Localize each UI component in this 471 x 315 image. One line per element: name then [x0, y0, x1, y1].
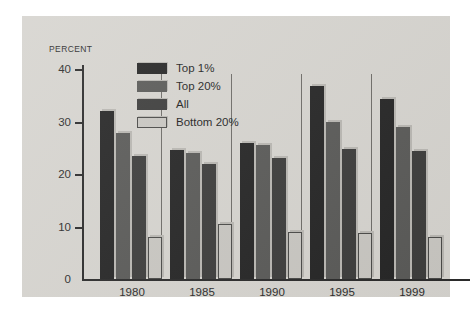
bars [310, 86, 374, 279]
y-tick-label: 10 [58, 221, 71, 233]
bar-1990-all[interactable] [272, 158, 286, 279]
bar-1985-bottom-20[interactable] [218, 224, 232, 279]
x-tick-label-1999: 1999 [399, 286, 425, 298]
legend-swatch-icon [137, 81, 167, 92]
legend-swatch-icon [137, 63, 167, 74]
bars [100, 111, 164, 279]
legend-item-all[interactable]: All [137, 96, 239, 112]
chart-figure: PERCENT 010203040 19801985199019951999 T… [0, 0, 471, 315]
y-tick-mark [75, 174, 82, 176]
legend-label: Bottom 20% [176, 116, 239, 128]
bar-1980-top-1[interactable] [100, 111, 114, 279]
bar-1995-all[interactable] [342, 149, 356, 279]
legend-swatch-icon [137, 117, 167, 128]
legend-item-bottom-20[interactable]: Bottom 20% [137, 114, 239, 130]
bar-1990-top-20[interactable] [256, 145, 270, 279]
bar-1985-all[interactable] [202, 164, 216, 280]
legend-item-top-20[interactable]: Top 20% [137, 78, 239, 94]
bars [380, 99, 444, 279]
bar-1990-bottom-20[interactable] [288, 232, 302, 279]
legend-label: Top 20% [176, 80, 221, 92]
bar-1990-top-1[interactable] [240, 143, 254, 280]
bars [240, 143, 304, 280]
y-tick-mark [75, 122, 82, 124]
bar-group-1990 [240, 69, 306, 279]
bar-1980-top-20[interactable] [116, 133, 130, 279]
legend-swatch-icon [137, 99, 167, 110]
x-tick-label-1980: 1980 [119, 286, 145, 298]
legend-label: Top 1% [176, 62, 214, 74]
bar-1995-top-1[interactable] [310, 86, 324, 279]
y-tick-label: 0 [65, 273, 71, 285]
bar-1985-top-20[interactable] [186, 153, 200, 279]
x-tick-label-1990: 1990 [259, 286, 285, 298]
bar-group-1995 [310, 69, 376, 279]
x-tick-label-1985: 1985 [189, 286, 215, 298]
legend-item-top-1[interactable]: Top 1% [137, 60, 239, 76]
bar-1999-bottom-20[interactable] [428, 237, 442, 279]
y-tick-label: 20 [58, 168, 71, 180]
y-axis-line [82, 65, 84, 281]
bar-1980-all[interactable] [132, 156, 146, 279]
bar-1995-bottom-20[interactable] [358, 233, 372, 279]
x-axis-line [82, 279, 470, 281]
bars [170, 150, 234, 279]
y-tick-mark [75, 69, 82, 71]
chart-legend: Top 1%Top 20%AllBottom 20% [137, 60, 239, 132]
y-tick-label: 40 [58, 63, 71, 75]
chart-panel: PERCENT 010203040 19801985199019951999 T… [22, 16, 450, 297]
y-tick-mark [75, 227, 82, 229]
bar-1999-top-20[interactable] [396, 127, 410, 279]
y-tick-label: 30 [58, 116, 71, 128]
x-tick-label-1995: 1995 [329, 286, 355, 298]
bar-1985-top-1[interactable] [170, 150, 184, 279]
y-axis-title: PERCENT [49, 44, 92, 54]
bar-group-1999 [380, 69, 446, 279]
bar-1980-bottom-20[interactable] [148, 237, 162, 279]
legend-label: All [176, 98, 189, 110]
bar-1999-top-1[interactable] [380, 99, 394, 279]
bar-1999-all[interactable] [412, 151, 426, 279]
bar-1995-top-20[interactable] [326, 122, 340, 280]
